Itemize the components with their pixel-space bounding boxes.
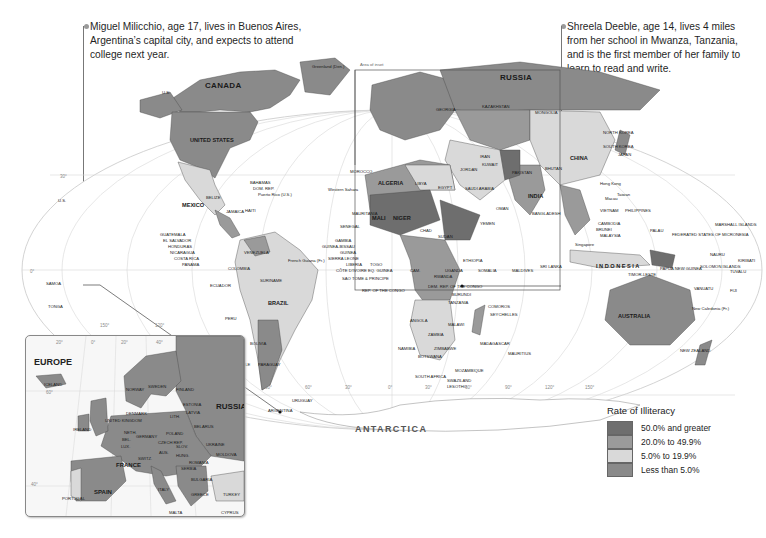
svg-text:INDIA: INDIA [528, 193, 543, 199]
svg-text:LIBYA: LIBYA [415, 181, 427, 186]
svg-text:SWITZ.: SWITZ. [138, 456, 152, 461]
svg-text:LUX.: LUX. [121, 444, 130, 449]
svg-text:GEORGIA: GEORGIA [436, 107, 456, 112]
svg-text:DEM. REP. OF THE CONGO: DEM. REP. OF THE CONGO [428, 284, 483, 289]
svg-text:ARGENTINA: ARGENTINA [268, 408, 293, 413]
svg-text:TURKEY: TURKEY [223, 492, 240, 497]
svg-text:BULGARIA: BULGARIA [191, 477, 212, 482]
legend-item: 20.0% to 49.9% [607, 435, 757, 449]
legend-item: Less than 5.0% [607, 463, 757, 477]
svg-text:BHUTAN: BHUTAN [545, 166, 562, 171]
svg-text:VIETNAM: VIETNAM [600, 208, 619, 213]
svg-text:BELARUS: BELARUS [194, 424, 214, 429]
svg-text:60°: 60° [305, 385, 312, 390]
svg-text:30°: 30° [345, 385, 352, 390]
svg-text:U.S.: U.S. [58, 198, 66, 203]
svg-text:Greenland (Den.): Greenland (Den.) [312, 64, 345, 69]
legend-item: 5.0% to 19.9% [607, 449, 757, 463]
svg-text:New Caledonia (Fr.): New Caledonia (Fr.) [692, 306, 730, 311]
svg-text:PAKISTAN: PAKISTAN [512, 170, 532, 175]
svg-text:REP. OF THE CONGO: REP. OF THE CONGO [362, 288, 405, 293]
svg-text:ETHIOPIA: ETHIOPIA [463, 258, 483, 263]
svg-text:ECUADOR: ECUADOR [210, 283, 231, 288]
svg-text:20°: 20° [56, 340, 63, 345]
svg-text:COSTA RICA: COSTA RICA [174, 256, 199, 261]
svg-text:EL SALVADOR: EL SALVADOR [163, 238, 191, 243]
svg-text:MALDIVES: MALDIVES [512, 268, 533, 273]
legend-label: Less than 5.0% [641, 465, 700, 475]
svg-text:CAMBODIA: CAMBODIA [598, 221, 621, 226]
svg-text:BEL.: BEL. [122, 437, 131, 442]
svg-text:CHINA: CHINA [570, 155, 588, 161]
svg-text:SURINAME: SURINAME [260, 278, 282, 283]
svg-text:SOUTH KOREA: SOUTH KOREA [603, 144, 634, 149]
svg-text:NEW ZEALAND: NEW ZEALAND [680, 348, 710, 353]
svg-text:JAPAN: JAPAN [618, 152, 631, 157]
svg-text:UGANDA: UGANDA [445, 268, 463, 273]
svg-text:SAMOA: SAMOA [46, 281, 61, 286]
svg-text:GUATEMALA: GUATEMALA [160, 232, 186, 237]
svg-text:30°: 30° [60, 174, 67, 179]
svg-text:TUVALU: TUVALU [730, 269, 746, 274]
svg-text:ZIMBABWE: ZIMBABWE [434, 346, 457, 351]
svg-text:DOM. REP.: DOM. REP. [253, 186, 274, 191]
svg-text:SEYCHELLES: SEYCHELLES [490, 312, 518, 317]
svg-text:0°: 0° [388, 385, 393, 390]
inset-land-balkans [176, 466, 208, 506]
svg-text:MOLDOVA: MOLDOVA [216, 452, 237, 457]
svg-text:GREECE: GREECE [191, 492, 209, 497]
svg-text:SERBIA: SERBIA [181, 466, 197, 471]
svg-text:HUNG.: HUNG. [176, 453, 190, 458]
svg-text:Hong Kong: Hong Kong [600, 181, 622, 186]
svg-text:90°: 90° [505, 385, 512, 390]
svg-text:SPAIN: SPAIN [94, 489, 112, 495]
legend-label: 5.0% to 19.9% [641, 451, 696, 461]
svg-text:PANAMA: PANAMA [182, 262, 200, 267]
land-canada [170, 70, 300, 112]
svg-text:BAHAMAS: BAHAMAS [250, 180, 271, 185]
svg-text:AUSTRALIA: AUSTRALIA [618, 313, 650, 319]
svg-text:SOUTH AFRICA: SOUTH AFRICA [415, 374, 446, 379]
svg-text:CYPRUS: CYPRUS [221, 510, 239, 515]
svg-text:CÔTE D'IVOIRE: CÔTE D'IVOIRE [336, 268, 367, 273]
svg-text:PARAGUAY: PARAGUAY [258, 362, 281, 367]
svg-text:URUGUAY: URUGUAY [292, 398, 313, 403]
legend-swatch [607, 421, 633, 435]
svg-text:BRAZIL: BRAZIL [268, 300, 289, 306]
svg-text:KAZAKHSTAN: KAZAKHSTAN [482, 104, 510, 109]
svg-text:IRELAND: IRELAND [73, 427, 91, 432]
svg-text:RWANDA: RWANDA [434, 274, 453, 279]
svg-text:LATVIA: LATVIA [186, 410, 200, 415]
svg-text:60°: 60° [46, 390, 53, 395]
svg-text:Area of inset: Area of inset [360, 62, 384, 67]
svg-text:40°: 40° [156, 340, 163, 345]
inset-land-scandinavia [124, 351, 181, 408]
svg-text:ANTARCTICA: ANTARCTICA [355, 424, 427, 434]
svg-text:EGYPT: EGYPT [438, 185, 453, 190]
svg-text:UNITED KINGDOM: UNITED KINGDOM [105, 418, 142, 423]
svg-text:SENEGAL: SENEGAL [340, 224, 360, 229]
svg-text:GERMANY: GERMANY [136, 434, 157, 439]
svg-text:I N D O N E S I A: I N D O N E S I A [596, 263, 639, 269]
svg-text:GUINEA-BISSAU: GUINEA-BISSAU [322, 244, 355, 249]
legend-label: 20.0% to 49.9% [641, 437, 701, 447]
svg-text:COMOROS: COMOROS [488, 304, 510, 309]
svg-text:30°: 30° [425, 385, 432, 390]
svg-text:NORWAY: NORWAY [126, 387, 145, 392]
svg-text:PAPUA NEW GUINEA: PAPUA NEW GUINEA [660, 266, 702, 271]
svg-text:JAMAICA: JAMAICA [226, 209, 244, 214]
svg-text:NAURU: NAURU [710, 252, 725, 257]
svg-text:KIRIBATI: KIRIBATI [738, 258, 755, 263]
legend-item: 50.0% and greater [607, 421, 757, 435]
svg-text:SIERRA LEONE: SIERRA LEONE [328, 256, 359, 261]
svg-text:UKRAINE: UKRAINE [206, 442, 225, 447]
svg-text:UNITED STATES: UNITED STATES [190, 137, 234, 143]
svg-text:YEMEN: YEMEN [480, 221, 495, 226]
svg-text:SRI LANKA: SRI LANKA [540, 264, 562, 269]
svg-text:120°: 120° [545, 385, 555, 390]
svg-text:MOZAMBIQUE: MOZAMBIQUE [455, 368, 484, 373]
svg-text:150°: 150° [585, 385, 595, 390]
svg-text:BANGLADESH: BANGLADESH [532, 211, 561, 216]
svg-text:PERU: PERU [225, 316, 237, 321]
svg-text:0°: 0° [91, 340, 96, 345]
